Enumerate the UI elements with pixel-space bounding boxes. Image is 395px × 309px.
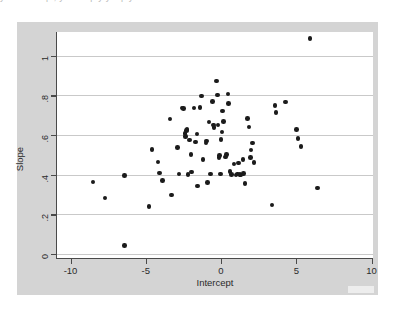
x-tick-label: 10 <box>355 265 389 276</box>
y-tick-label: 1 <box>40 56 50 78</box>
scatter-point <box>252 160 257 165</box>
y-tick-mark <box>51 214 56 215</box>
scatter-point <box>221 119 226 124</box>
y-tick-label: .8 <box>40 95 50 117</box>
x-tick-label: -5 <box>129 265 163 276</box>
scatter-point <box>160 178 165 183</box>
gridline-y <box>57 254 373 255</box>
x-tick-label: -10 <box>54 265 88 276</box>
scatter-point <box>224 152 229 157</box>
scatter-point <box>245 116 250 121</box>
scatter-point <box>236 161 241 166</box>
scatter-point <box>315 186 320 191</box>
scatter-point <box>175 145 180 150</box>
scatter-point <box>193 140 198 145</box>
scatter-point <box>249 148 254 153</box>
scatter-point <box>273 103 278 108</box>
scan-artifact <box>348 286 374 293</box>
y-tick-label: .2 <box>40 214 50 236</box>
y-tick-mark <box>51 175 56 176</box>
x-tick-mark <box>221 259 222 264</box>
scatter-point <box>122 173 127 178</box>
scatter-point <box>198 105 203 110</box>
scatter-point <box>274 110 279 115</box>
x-axis-title: Intercept <box>57 277 373 288</box>
page-text-remnant: y u v e v u p , y u u u p y y u p y <box>0 0 395 12</box>
gridline-y <box>57 214 373 215</box>
x-tick-mark <box>71 259 72 264</box>
scatter-point <box>156 160 161 165</box>
scatter-point <box>185 127 190 132</box>
scatter-point <box>91 180 96 185</box>
y-axis-line <box>56 32 57 259</box>
x-tick-label: 0 <box>204 265 238 276</box>
scatter-point <box>195 184 200 189</box>
scatter-point <box>216 123 221 128</box>
gridline-y <box>57 175 373 176</box>
graph-region: Slope Intercept 0.2.4.6.81-10-50510 <box>17 22 378 295</box>
scatter-point <box>201 157 206 162</box>
y-tick-mark <box>51 56 56 57</box>
x-tick-mark <box>372 259 373 264</box>
scatter-point <box>157 171 162 176</box>
x-tick-mark <box>146 259 147 264</box>
scatter-point <box>217 153 222 158</box>
scatter-point <box>243 181 248 186</box>
scatter-point <box>215 93 220 98</box>
scatter-point <box>294 127 299 132</box>
gridline-y <box>57 135 373 136</box>
scatter-point <box>210 99 215 104</box>
scatter-point <box>308 36 313 41</box>
scatter-point <box>208 172 213 177</box>
y-tick-label: 0 <box>40 254 50 276</box>
scatter-point <box>122 243 127 248</box>
scatter-point <box>181 106 186 111</box>
scatter-point <box>219 137 224 142</box>
page-text-remnant-line: y u v e v u p , y u u u p y y u p y <box>0 0 395 2</box>
x-axis-line <box>56 258 373 259</box>
scatter-point <box>103 196 108 201</box>
scatter-point <box>192 106 197 111</box>
x-tick-label: 5 <box>279 265 313 276</box>
y-tick-label: .6 <box>40 135 50 157</box>
x-tick-mark <box>296 259 297 264</box>
scatter-point <box>214 79 219 84</box>
scatter-point <box>220 109 225 114</box>
scatter-point <box>241 157 246 162</box>
y-axis-title: Slope <box>14 146 25 170</box>
y-tick-mark <box>51 254 56 255</box>
y-tick-label: .4 <box>40 175 50 197</box>
y-tick-mark <box>51 95 56 96</box>
scatter-point <box>220 130 225 135</box>
scatter-point <box>241 171 246 176</box>
scatter-point <box>187 138 192 143</box>
y-tick-mark <box>51 135 56 136</box>
gridline-y <box>57 56 373 57</box>
scatter-point <box>169 193 174 198</box>
scatter-point <box>189 152 194 157</box>
scatter-point <box>205 180 210 185</box>
scatter-point <box>247 125 252 130</box>
scatter-point <box>150 147 155 152</box>
scatter-point <box>199 94 204 99</box>
scatter-point <box>283 100 288 105</box>
scatter-point <box>147 204 152 209</box>
scatter-point <box>168 117 173 122</box>
scatter-point <box>299 144 304 149</box>
scatter-point <box>296 136 301 141</box>
scatter-point <box>250 141 255 146</box>
scatter-point <box>270 203 275 208</box>
scatter-point <box>218 172 223 177</box>
scatter-point <box>226 101 231 106</box>
scatter-point <box>186 172 191 177</box>
scatter-point <box>204 139 209 144</box>
plot-area <box>57 32 373 258</box>
